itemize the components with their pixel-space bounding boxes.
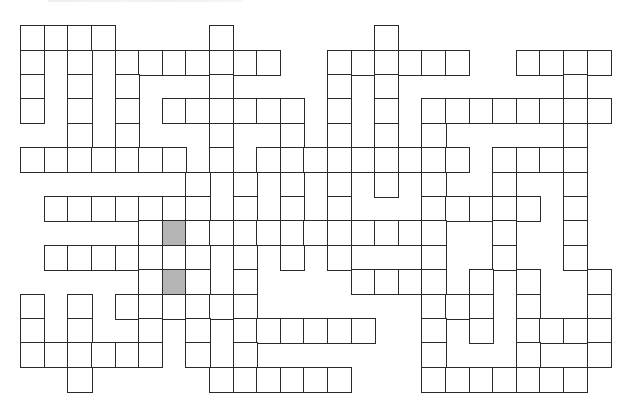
- crossword-cell[interactable]: [516, 147, 541, 173]
- crossword-cell[interactable]: [587, 98, 612, 124]
- crossword-cell[interactable]: [233, 220, 258, 246]
- crossword-cell[interactable]: [539, 367, 564, 393]
- crossword-cell[interactable]: [185, 245, 210, 271]
- crossword-cell[interactable]: [256, 98, 281, 124]
- crossword-cell[interactable]: [162, 245, 187, 271]
- crossword-cell[interactable]: [185, 269, 210, 295]
- crossword-cell[interactable]: [67, 318, 92, 344]
- crossword-cell[interactable]: [209, 123, 234, 149]
- crossword-cell[interactable]: [303, 367, 328, 393]
- crossword-cell[interactable]: [280, 318, 305, 344]
- crossword-cell[interactable]: [20, 25, 45, 51]
- crossword-cell[interactable]: [374, 269, 399, 295]
- crossword-cell[interactable]: [563, 74, 588, 100]
- crossword-cell[interactable]: [351, 50, 376, 76]
- crossword-cell[interactable]: [209, 147, 234, 173]
- crossword-cell[interactable]: [587, 342, 612, 368]
- crossword-cell[interactable]: [20, 294, 45, 320]
- crossword-cell[interactable]: [185, 50, 210, 76]
- crossword-cell[interactable]: [115, 50, 140, 76]
- crossword-cell[interactable]: [67, 196, 92, 222]
- crossword-cell[interactable]: [374, 50, 399, 76]
- crossword-cell[interactable]: [233, 98, 258, 124]
- crossword-cell[interactable]: [398, 269, 423, 295]
- crossword-cell[interactable]: [374, 25, 399, 51]
- crossword-cell[interactable]: [351, 147, 376, 173]
- crossword-cell[interactable]: [374, 123, 399, 149]
- crossword-cell[interactable]: [233, 172, 258, 198]
- crossword-cell[interactable]: [563, 147, 588, 173]
- crossword-cell[interactable]: [327, 50, 352, 76]
- crossword-cell[interactable]: [280, 220, 305, 246]
- crossword-cell[interactable]: [280, 245, 305, 271]
- crossword-cell[interactable]: [209, 98, 234, 124]
- crossword-cell[interactable]: [398, 50, 423, 76]
- crossword-cell[interactable]: [138, 50, 163, 76]
- crossword-cell[interactable]: [233, 50, 258, 76]
- crossword-cell[interactable]: [162, 50, 187, 76]
- crossword-cell[interactable]: [445, 196, 470, 222]
- crossword-cell[interactable]: [67, 342, 92, 368]
- crossword-cell[interactable]: [327, 172, 352, 198]
- crossword-cell[interactable]: [421, 50, 446, 76]
- crossword-cell[interactable]: [20, 147, 45, 173]
- crossword-cell[interactable]: [469, 294, 494, 320]
- crossword-cell[interactable]: [516, 318, 541, 344]
- crossword-cell[interactable]: [516, 196, 541, 222]
- crossword-cell[interactable]: [516, 269, 541, 295]
- crossword-cell[interactable]: [138, 196, 163, 222]
- crossword-cell[interactable]: [233, 342, 258, 368]
- crossword-cell[interactable]: [162, 294, 187, 320]
- crossword-cell[interactable]: [587, 269, 612, 295]
- crossword-cell[interactable]: [138, 294, 163, 320]
- crossword-cell[interactable]: [256, 50, 281, 76]
- crossword-cell[interactable]: [91, 196, 116, 222]
- crossword-cell[interactable]: [516, 50, 541, 76]
- crossword-cell[interactable]: [280, 123, 305, 149]
- crossword-cell[interactable]: [469, 367, 494, 393]
- crossword-cell[interactable]: [138, 147, 163, 173]
- crossword-cell[interactable]: [67, 98, 92, 124]
- shaded-cell[interactable]: [162, 269, 187, 295]
- crossword-cell[interactable]: [421, 367, 446, 393]
- crossword-cell[interactable]: [351, 318, 376, 344]
- crossword-cell[interactable]: [209, 25, 234, 51]
- crossword-cell[interactable]: [138, 220, 163, 246]
- crossword-cell[interactable]: [20, 50, 45, 76]
- crossword-cell[interactable]: [327, 318, 352, 344]
- crossword-cell[interactable]: [67, 294, 92, 320]
- crossword-cell[interactable]: [280, 98, 305, 124]
- crossword-cell[interactable]: [539, 318, 564, 344]
- crossword-cell[interactable]: [303, 220, 328, 246]
- crossword-cell[interactable]: [492, 147, 517, 173]
- crossword-cell[interactable]: [44, 196, 69, 222]
- crossword-cell[interactable]: [374, 220, 399, 246]
- crossword-cell[interactable]: [374, 74, 399, 100]
- shaded-cell[interactable]: [162, 220, 187, 246]
- crossword-cell[interactable]: [280, 367, 305, 393]
- crossword-cell[interactable]: [563, 172, 588, 198]
- crossword-cell[interactable]: [138, 318, 163, 344]
- crossword-cell[interactable]: [563, 318, 588, 344]
- crossword-cell[interactable]: [374, 98, 399, 124]
- crossword-cell[interactable]: [67, 367, 92, 393]
- crossword-cell[interactable]: [398, 220, 423, 246]
- crossword-cell[interactable]: [327, 367, 352, 393]
- crossword-cell[interactable]: [233, 318, 258, 344]
- crossword-cell[interactable]: [209, 220, 234, 246]
- crossword-cell[interactable]: [563, 220, 588, 246]
- crossword-cell[interactable]: [138, 342, 163, 368]
- crossword-cell[interactable]: [115, 342, 140, 368]
- crossword-cell[interactable]: [351, 269, 376, 295]
- crossword-cell[interactable]: [563, 245, 588, 271]
- crossword-cell[interactable]: [421, 123, 446, 149]
- crossword-cell[interactable]: [20, 74, 45, 100]
- crossword-cell[interactable]: [44, 342, 69, 368]
- crossword-cell[interactable]: [516, 342, 541, 368]
- crossword-cell[interactable]: [67, 50, 92, 76]
- crossword-cell[interactable]: [563, 196, 588, 222]
- crossword-cell[interactable]: [492, 245, 517, 271]
- crossword-cell[interactable]: [185, 98, 210, 124]
- crossword-cell[interactable]: [563, 50, 588, 76]
- crossword-cell[interactable]: [421, 147, 446, 173]
